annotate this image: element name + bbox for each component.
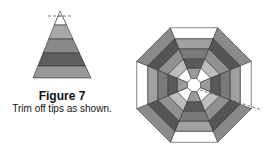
octagon-segment (170, 28, 217, 39)
figure-canvas: Figure 7 Trim off tips as shown. (0, 0, 264, 153)
octagon-segment (175, 39, 213, 49)
octagon-segment (240, 61, 251, 108)
octagon-segment (170, 131, 217, 142)
octagon-segment (230, 66, 240, 104)
figure-subtitle: Trim off tips as shown. (0, 103, 124, 114)
octagon-segment (211, 74, 220, 95)
octagon-layers (137, 28, 252, 143)
figure-title: Figure 7 (0, 89, 124, 103)
diagram-svg (0, 0, 264, 153)
triangle-band (54, 16, 66, 25)
triangle-band (38, 53, 86, 66)
octagon-center (188, 79, 201, 92)
octagon-segment (148, 66, 158, 104)
octagon-segment (179, 111, 209, 121)
octagon-segment (220, 70, 230, 100)
triangle-band (49, 25, 73, 39)
triangle-band (43, 39, 79, 53)
octagon-segment (158, 70, 168, 100)
triangle-layers (33, 11, 91, 78)
octagon-segment (175, 121, 213, 131)
octagon-segment (137, 61, 148, 108)
triangle-band (33, 66, 91, 78)
octagon-segment (179, 49, 209, 59)
